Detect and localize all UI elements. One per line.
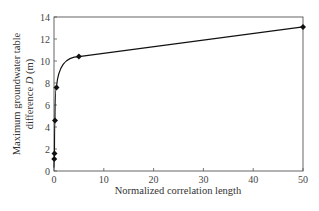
y-tick-label: 6 bbox=[45, 100, 50, 111]
x-tick-label: 50 bbox=[298, 174, 308, 185]
x-tick-label: 20 bbox=[149, 174, 159, 185]
y-tick-label: 10 bbox=[40, 56, 50, 67]
data-point-marker bbox=[76, 54, 82, 60]
y-tick-label: 0 bbox=[45, 166, 50, 177]
y-axis-title-line2: difference D (m) bbox=[24, 58, 36, 129]
data-curve bbox=[54, 27, 303, 168]
y-tick-label: 8 bbox=[45, 78, 50, 89]
y-axis-title: Maximum groundwater table difference D (… bbox=[11, 32, 36, 155]
x-axis-title: Normalized correlation length bbox=[115, 185, 242, 196]
y-tick-label: 4 bbox=[45, 122, 50, 133]
plot-border bbox=[54, 17, 303, 171]
x-tick-label: 40 bbox=[248, 174, 258, 185]
data-point-marker bbox=[51, 150, 57, 156]
x-tick-label: 0 bbox=[52, 174, 57, 185]
plot-frame bbox=[54, 17, 303, 171]
y-tick-label: 2 bbox=[45, 144, 50, 155]
data-point-marker bbox=[52, 117, 58, 123]
data-markers bbox=[51, 24, 306, 162]
x-tick-label: 10 bbox=[99, 174, 109, 185]
data-point-marker bbox=[300, 24, 306, 30]
y-axis-title-line1: Maximum groundwater table bbox=[11, 32, 22, 155]
y-tick-label: 12 bbox=[40, 34, 50, 45]
x-tick-label: 30 bbox=[198, 174, 208, 185]
chart: 02468101214 01020304050 Normalized corre… bbox=[0, 0, 319, 211]
y-tick-label: 14 bbox=[40, 12, 50, 23]
data-point-marker bbox=[51, 156, 57, 162]
